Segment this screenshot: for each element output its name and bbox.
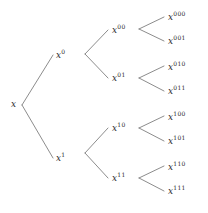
tree-edges-layer: [0, 0, 208, 213]
tree-edge: [139, 17, 164, 29]
tree-edge: [85, 30, 108, 54]
tree-node-n1: x1: [56, 152, 65, 163]
tree-edge: [85, 153, 108, 178]
tree-node-n110: x110: [168, 161, 186, 172]
tree-edge: [139, 66, 164, 78]
tree-node-n111: x111: [168, 185, 186, 196]
tree-edge: [85, 128, 108, 153]
node-superscript: 101: [173, 134, 186, 141]
tree-node-n01: x01: [112, 72, 126, 83]
tree-node-n11: x11: [112, 172, 126, 183]
tree-edge: [139, 166, 164, 178]
node-superscript: 10: [117, 121, 125, 128]
tree-node-n001: x001: [168, 35, 186, 46]
edges-group: [22, 17, 164, 191]
tree-node-n100: x100: [168, 111, 186, 122]
node-superscript: 1: [61, 151, 65, 158]
tree-edge: [139, 128, 164, 141]
tree-edge: [22, 105, 53, 158]
tree-edge: [139, 178, 164, 191]
tree-edge: [22, 55, 53, 105]
binary-tree-diagram: xx0x1x00x01x10x11x000x001x010x011x100x10…: [0, 0, 208, 213]
node-superscript: 0: [61, 48, 65, 55]
tree-node-n000: x000: [168, 11, 186, 22]
node-superscript: 111: [173, 184, 186, 191]
node-superscript: 000: [173, 10, 186, 17]
node-base: x: [11, 99, 16, 109]
tree-edge: [85, 54, 108, 78]
tree-edge: [139, 116, 164, 128]
node-superscript: 100: [173, 110, 186, 117]
tree-edge: [139, 78, 164, 91]
tree-node-n010: x010: [168, 61, 186, 72]
node-superscript: 110: [173, 160, 186, 167]
node-superscript: 001: [173, 34, 186, 41]
tree-node-n101: x101: [168, 135, 186, 146]
node-superscript: 00: [117, 23, 125, 30]
tree-node-n00: x00: [112, 24, 126, 35]
tree-node-n0: x0: [56, 49, 65, 60]
node-superscript: 01: [117, 71, 125, 78]
tree-node-n10: x10: [112, 122, 126, 133]
tree-edge: [139, 29, 164, 41]
tree-node-root: x: [11, 100, 16, 109]
tree-node-n011: x011: [168, 85, 186, 96]
node-superscript: 11: [117, 171, 125, 178]
node-superscript: 010: [173, 60, 186, 67]
node-superscript: 011: [173, 84, 186, 91]
